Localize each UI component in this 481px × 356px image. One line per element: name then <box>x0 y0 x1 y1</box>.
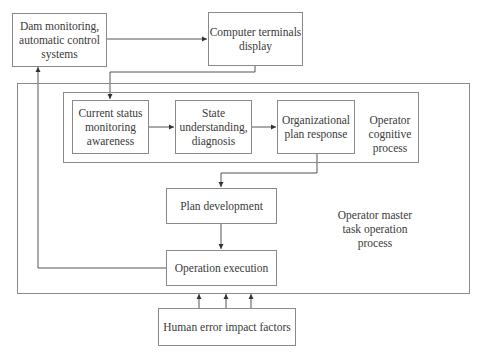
node-operation-execution-label: Operation execution <box>175 261 269 275</box>
node-organizational-plan: Organizational plan response <box>277 100 355 154</box>
cognitive-process-label: Operator cognitive process <box>350 113 430 155</box>
node-dam-monitoring-label: Dam monitoring, automatic control system… <box>19 19 100 61</box>
node-operation-execution: Operation execution <box>166 250 277 286</box>
node-human-error-factors: Human error impact factors <box>158 308 296 346</box>
node-current-status: Current status monitoring awareness <box>72 100 149 154</box>
node-plan-development: Plan development <box>166 188 277 224</box>
node-state-understanding: State understanding, diagnosis <box>175 100 252 154</box>
master-task-label: Operator master task operation process <box>322 208 428 250</box>
node-computer-terminals-label: Computer terminals display <box>210 25 302 53</box>
node-human-error-factors-label: Human error impact factors <box>163 320 290 334</box>
diagram-canvas: Dam monitoring, automatic control system… <box>0 0 481 356</box>
node-computer-terminals: Computer terminals display <box>208 12 303 66</box>
node-state-understanding-label: State understanding, diagnosis <box>179 106 247 148</box>
node-dam-monitoring: Dam monitoring, automatic control system… <box>12 13 107 67</box>
node-organizational-plan-label: Organizational plan response <box>282 113 350 141</box>
node-current-status-label: Current status monitoring awareness <box>78 106 142 148</box>
node-plan-development-label: Plan development <box>180 199 263 213</box>
